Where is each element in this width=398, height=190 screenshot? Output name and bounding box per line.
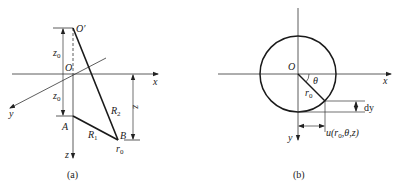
- theta-arc: [306, 74, 309, 82]
- label-x-a: x: [152, 76, 158, 87]
- panel-a: O′ O x y z z0 z0 A B R1 R2 z r0 (a): [8, 23, 158, 181]
- label-u-function: u(r0,θ,z): [326, 127, 360, 140]
- label-theta: θ: [313, 75, 318, 86]
- label-r1: R1: [87, 129, 98, 142]
- label-z-dim: z: [131, 104, 142, 109]
- label-y-a: y: [8, 108, 14, 119]
- label-dy: dy: [364, 102, 374, 113]
- label-r0-b: r0: [305, 87, 313, 100]
- label-o-prime: O′: [76, 23, 86, 34]
- caption-a: (a): [67, 169, 78, 181]
- label-o-a: O: [65, 62, 72, 73]
- label-z0-upper: z0: [52, 47, 61, 60]
- label-r0-a: r0: [116, 143, 124, 156]
- label-point-b: B: [120, 130, 126, 141]
- label-o-b: O: [288, 61, 295, 72]
- label-z0-lower: z0: [52, 90, 61, 103]
- r2-line: [73, 28, 118, 140]
- label-x-b: x: [382, 75, 388, 86]
- label-z-axis-a: z: [64, 149, 69, 160]
- diagram-canvas: O′ O x y z z0 z0 A B R1 R2 z r0 (a): [0, 0, 398, 190]
- panel-b: O x y θ r0 dy u(r0,θ,z) (b): [218, 8, 391, 181]
- caption-b: (b): [293, 169, 305, 181]
- label-y-b: y: [287, 132, 293, 143]
- label-point-a: A: [61, 121, 69, 132]
- label-r2: R2: [110, 105, 121, 118]
